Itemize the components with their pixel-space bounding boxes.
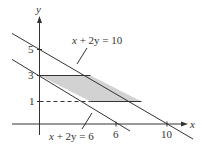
y-tick-label-3: 3 [28, 69, 34, 81]
x-tick-label-10: 10 [161, 128, 173, 140]
y-tick-label-1: 1 [29, 95, 35, 107]
equation-label-6: x + 2y = 6 [48, 130, 94, 142]
leader-line-6 [82, 113, 92, 129]
y-axis-arrow-icon [37, 16, 42, 23]
y-axis-label: y [35, 3, 41, 15]
x-axis-label: x [189, 118, 195, 130]
x-axis-arrow-icon [181, 122, 188, 127]
diagram-canvas: y x 6 10 5 3 1 x + 2y = 10 x + 2y = 6 [0, 0, 202, 148]
leader-line-10 [77, 48, 87, 64]
x-tick-label-6: 6 [113, 128, 119, 140]
y-tick-label-5: 5 [28, 43, 34, 55]
equation-label-10: x + 2y = 10 [71, 34, 123, 46]
